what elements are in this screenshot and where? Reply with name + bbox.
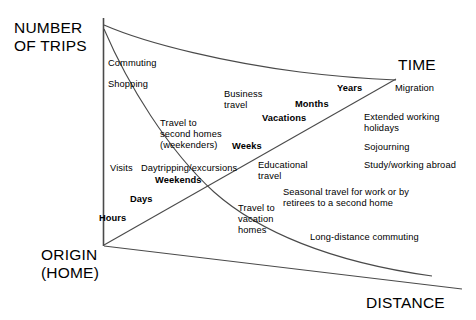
time-scale-days: Days [130, 194, 153, 205]
category-daytripping: Daytripping/excursions [141, 163, 237, 174]
curve-high-frequency [104, 25, 396, 80]
category-sojourning: Sojourning [364, 142, 409, 153]
y-axis-title: NUMBER OF TRIPS [14, 19, 87, 56]
x-axis-line [104, 246, 462, 289]
x-axis-title: DISTANCE [366, 294, 445, 312]
category-commuting: Commuting [108, 58, 156, 69]
category-visits: Visits [110, 163, 133, 174]
category-extended-working-holidays: Extended working holidays [364, 112, 440, 134]
time-scale-vacations: Vacations [262, 113, 306, 124]
time-axis-title: TIME [398, 56, 436, 74]
category-seasonal-travel: Seasonal travel for work or by retirees … [283, 187, 409, 209]
time-scale-hours: Hours [99, 213, 126, 224]
category-shopping: Shopping [108, 79, 148, 90]
time-scale-weekends: Weekends [155, 175, 202, 186]
category-business-travel: Business travel [224, 89, 263, 111]
time-scale-weeks: Weeks [232, 141, 262, 152]
category-long-distance-commuting: Long-distance commuting [310, 232, 419, 243]
category-study-working-abroad: Study/working abroad [364, 160, 456, 171]
time-scale-years: Years [337, 83, 362, 94]
category-migration: Migration [395, 83, 434, 94]
origin-title: ORIGIN (HOME) [41, 246, 99, 283]
category-second-homes: Travel to second homes (weekenders) [160, 118, 222, 151]
time-scale-months: Months [295, 99, 329, 110]
category-vacation-homes: Travel to vacation homes [238, 203, 275, 236]
diagram-canvas: NUMBER OF TRIPS TIME ORIGIN (HOME) DISTA… [0, 0, 476, 320]
category-educational-travel: Educational travel [258, 160, 308, 182]
